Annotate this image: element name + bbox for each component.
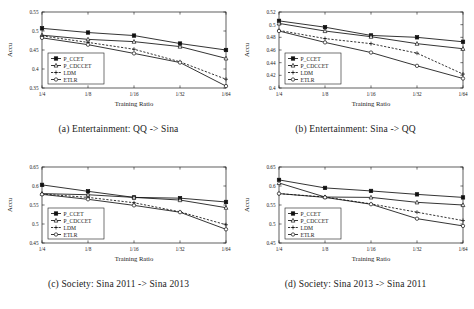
series-p_cdccet-marker-triangle [323,29,327,33]
line-chart-b: 0.40.420.440.460.480.50.521/41/81/161/32… [237,0,474,122]
y-tick-label: 0.42 [266,72,275,78]
chart-panel-c: 0.450.50.550.60.651/41/81/161/321/64Trai… [0,155,237,309]
x-tick-label: 1/32 [412,91,422,97]
series-etlr-marker-circle [461,77,464,80]
caption-d: (d) Society: Sina 2013 -> Sina 2011 [237,279,474,289]
x-tick-label: 1/16 [366,91,376,97]
series-p_cdccet-marker-triangle [415,42,419,46]
y-tick-label: 0.5 [269,221,276,227]
y-tick-label: 0.55 [266,202,275,208]
series-etlr-marker-circle [40,193,43,196]
legend-label-etlr: ETLR [64,77,78,83]
y-tick-label: 0.45 [29,240,38,246]
legend-etlr-marker-circle [291,233,294,236]
x-tick-label: 1/64 [221,91,231,97]
y-tick-label: 0.5 [32,221,39,227]
legend-label-ldm: LDM [64,70,76,76]
plot-area-b: 0.40.420.440.460.480.50.521/41/81/161/32… [237,0,474,122]
series-p_ccet-marker-square [132,34,135,37]
legend-p_ccet-marker-square [54,57,57,60]
series-etlr-marker-circle [415,64,418,67]
x-tick-label: 1/8 [322,246,329,252]
x-tick-label: 1/16 [129,91,139,97]
series-p_cdccet-marker-triangle [461,47,465,51]
legend: P_CCETP_CDCCETLDMETLR [48,208,104,239]
y-tick-label: 0.48 [266,34,275,40]
x-axis-title: Training Ratio [352,255,391,262]
legend-label-p_cdccet: P_CDCCET [301,218,330,224]
x-tick-label: 1/4 [276,246,283,252]
series-p_ccet-marker-square [86,31,89,34]
plot-area-c: 0.450.50.550.60.651/41/81/161/321/64Trai… [0,155,237,277]
legend-p_ccet-marker-square [54,212,57,215]
legend-etlr-marker-circle [54,78,57,81]
y-tick-label: 0.4 [32,66,39,72]
series-p_ccet-marker-square [224,48,227,51]
y-tick-label: 0.5 [269,22,276,28]
series-p_cdccet-marker-triangle [224,206,228,210]
series-p_ccet-marker-square [369,189,372,192]
chart-panel-d: 0.450.50.550.60.651/41/81/161/321/64Trai… [237,155,474,309]
series-p_cdccet-marker-triangle [461,203,465,207]
chart-panel-a: 0.350.40.450.50.551/41/81/161/321/64Trai… [0,0,237,155]
legend-label-p_ccet: P_CCET [301,211,322,217]
series-ldm-marker-plus [132,47,136,51]
plot-area-d: 0.450.50.550.60.651/41/81/161/321/64Trai… [237,155,474,277]
x-tick-label: 1/8 [85,246,92,252]
legend-label-p_ccet: P_CCET [64,211,85,217]
series-etlr-marker-circle [178,61,181,64]
series-p_ccet-marker-square [40,27,43,30]
legend-label-etlr: ETLR [301,232,315,238]
x-tick-label: 1/16 [366,246,376,252]
x-tick-label: 1/64 [458,246,468,252]
x-tick-label: 1/8 [85,91,92,97]
caption-a: (a) Entertainment: QQ -> Sina [0,124,237,134]
series-ldm-marker-plus [224,77,228,81]
y-tick-label: 0.65 [266,164,275,170]
series-etlr-marker-circle [369,51,372,54]
series-p_cdccet-marker-triangle [132,40,136,44]
legend: P_CCETP_CDCCETLDMETLR [48,53,104,84]
series-ldm-marker-plus [461,219,465,223]
x-tick-label: 1/64 [221,246,231,252]
y-tick-label: 0.6 [32,183,39,189]
legend: P_CCETP_CDCCETLDMETLR [285,208,341,239]
legend-label-ldm: LDM [64,225,76,231]
series-p_ccet-marker-square [224,200,227,203]
legend-label-p_cdccet: P_CDCCET [64,63,93,69]
series-etlr-marker-circle [415,217,418,220]
series-p_ccet-marker-square [415,193,418,196]
series-etlr-marker-circle [132,52,135,55]
y-tick-label: 0.45 [266,240,275,246]
y-tick-label: 0.44 [266,60,275,66]
y-tick-label: 0.65 [29,164,38,170]
x-tick-label: 1/32 [412,246,422,252]
series-etlr-marker-circle [277,29,280,32]
series-etlr-marker-circle [277,192,280,195]
figure-grid: 0.350.40.450.50.551/41/81/161/321/64Trai… [0,0,474,309]
series-ldm-marker-plus [415,210,419,214]
series-p_cdccet-marker-triangle [224,56,228,60]
legend-p_ccet-marker-square [291,212,294,215]
series-p_cdccet-marker-triangle [369,195,373,199]
line-chart-d: 0.450.50.550.60.651/41/81/161/321/64Trai… [237,155,474,277]
series-etlr-marker-circle [323,41,326,44]
chart-panel-b: 0.40.420.440.460.480.50.521/41/81/161/32… [237,0,474,155]
series-p_ccet-marker-square [323,186,326,189]
series-etlr-marker-circle [40,36,43,39]
legend-label-etlr: ETLR [301,77,315,83]
x-tick-label: 1/32 [175,246,185,252]
y-tick-label: 0.52 [266,9,275,15]
x-tick-label: 1/8 [322,91,329,97]
series-line-p_cdccet [279,183,463,205]
legend-etlr-marker-circle [54,233,57,236]
series-etlr-marker-circle [369,203,372,206]
legend-label-ldm: LDM [301,225,313,231]
x-tick-label: 1/4 [276,91,283,97]
y-axis-title: Accu [6,197,13,212]
legend-label-p_cdccet: P_CDCCET [301,63,330,69]
line-chart-a: 0.350.40.450.50.551/41/81/161/321/64Trai… [0,0,237,122]
x-axis-title: Training Ratio [115,100,154,107]
legend-label-p_cdccet: P_CDCCET [64,218,93,224]
legend-label-p_ccet: P_CCET [301,56,322,62]
